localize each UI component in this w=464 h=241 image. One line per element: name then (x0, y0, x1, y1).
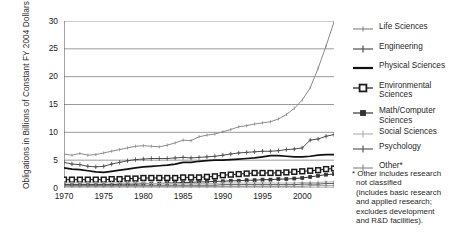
footnote-line: (includes basic research (352, 188, 460, 197)
legend-item-life-sciences[interactable]: Life Sciences (352, 22, 464, 34)
legend-item-label: Social Sciences (379, 127, 437, 136)
legend-item-math-computer-sciences[interactable]: Math/Computer Sciences (352, 106, 464, 124)
y-axis-title: Obligations in Billions of Constant FY 2… (22, 0, 36, 190)
legend-marker-icon (352, 44, 374, 54)
chart-canvas (64, 21, 334, 188)
y-tick-label: 10 (38, 128, 58, 136)
footnote-line: * Other includes research (352, 169, 460, 178)
footnote-line: and R&D facilities). (352, 216, 460, 225)
legend-marker-icon (352, 63, 374, 73)
footnote-line: not classified (352, 178, 460, 187)
legend-item-label: Physical Sciences (379, 61, 445, 70)
legend-marker-icon (352, 108, 374, 118)
legend-item-label: Math/Computer Sciences (379, 106, 464, 124)
legend-item-psychology[interactable]: Psychology (352, 142, 464, 154)
chart-figure: Obligations in Billions of Constant FY 2… (0, 0, 464, 241)
legend-item-engineering[interactable]: Engineering (352, 42, 464, 54)
legend-item-label: Life Sciences (379, 22, 428, 31)
y-tick-label: 30 (38, 17, 58, 25)
x-tick-label: 1985 (168, 191, 198, 201)
legend-marker-icon (352, 129, 374, 139)
legend-marker-icon (352, 144, 374, 154)
x-tick-label: 2000 (287, 191, 317, 201)
plot-area (64, 21, 334, 188)
x-tick-label: 1990 (208, 191, 238, 201)
y-tick-label: 20 (38, 72, 58, 80)
legend-item-label: Psychology (379, 142, 421, 151)
x-tick-label: 1980 (128, 191, 158, 201)
footnote-line: and applied research; (352, 197, 460, 206)
legend-marker-icon (352, 24, 374, 34)
footnote-other-definition: * Other includes researchnot classified(… (352, 169, 460, 225)
legend-marker-icon (352, 83, 374, 93)
x-tick-label: 1995 (248, 191, 278, 201)
legend-item-environmental-sciences[interactable]: Environmental Sciences (352, 81, 464, 99)
x-tick-label: 1975 (89, 191, 119, 201)
x-tick-label: 1970 (49, 191, 79, 201)
footnote-line: excludes development (352, 207, 460, 216)
chart-legend: Life SciencesEngineeringPhysical Science… (352, 22, 464, 181)
y-tick-label: 25 (38, 44, 58, 52)
y-tick-label: 15 (38, 100, 58, 108)
legend-item-label: Engineering (379, 42, 423, 51)
legend-item-social-sciences[interactable]: Social Sciences (352, 127, 464, 139)
legend-item-physical-sciences[interactable]: Physical Sciences (352, 61, 464, 73)
y-tick-label: 5 (38, 156, 58, 164)
legend-item-label: Environmental Sciences (379, 81, 464, 99)
